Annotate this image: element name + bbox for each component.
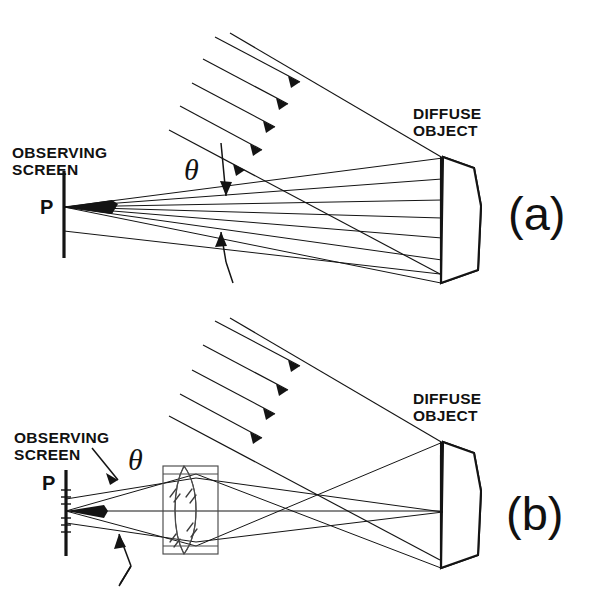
point-label-p-b: P <box>42 472 55 494</box>
angle-label-theta-b: θ <box>128 443 143 476</box>
angle-label-theta-a: θ <box>184 153 199 186</box>
observing-screen-label-b-line2: SCREEN <box>14 446 80 463</box>
diffuse-object-label-a-line1: DIFFUSE <box>413 105 481 122</box>
panel-label-a: (a) <box>508 187 565 240</box>
observing-screen-label-a-line2: SCREEN <box>12 161 78 178</box>
panel-label-b: (b) <box>506 487 563 540</box>
diffuse-object-label-b-line2: OBJECT <box>413 407 478 424</box>
figure-root: OBSERVING SCREEN P θ DIFFUSE OBJECT (a) <box>0 0 596 602</box>
diffuse-object-b <box>441 442 481 568</box>
observing-screen-label-b-line1: OBSERVING <box>14 429 109 446</box>
diffuse-object-label-a-line2: OBJECT <box>413 122 478 139</box>
diffuse-object-a <box>441 157 481 283</box>
point-label-p-a: P <box>40 196 53 218</box>
diffuse-object-label-b-line1: DIFFUSE <box>413 390 481 407</box>
observing-screen-label-a-line1: OBSERVING <box>12 144 107 161</box>
optics-diagram-svg: OBSERVING SCREEN P θ DIFFUSE OBJECT (a) <box>0 0 596 602</box>
